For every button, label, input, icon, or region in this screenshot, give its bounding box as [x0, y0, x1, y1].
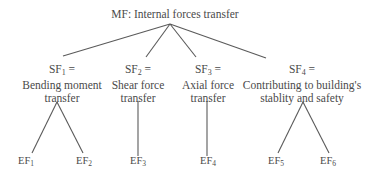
sub-function-node-sf4: SF4 = Contributing to building's stablit… [235, 63, 369, 105]
sf1-line-1: Bending moment [10, 79, 114, 92]
ef2-index: 2 [88, 159, 92, 168]
sf3-prefix: SF [195, 63, 208, 75]
edge-sf4-ef5 [278, 102, 303, 153]
edge-mf-sf1 [63, 24, 170, 56]
ef3-index: 3 [142, 159, 146, 168]
ef3-prefix: EF [130, 155, 142, 166]
edge-mf-sf2 [146, 24, 170, 57]
edge-sf1-ef2 [57, 102, 83, 153]
sf2-prefix: SF [125, 63, 138, 75]
edge-sf4-ef6 [303, 102, 329, 153]
ef2-prefix: EF [76, 155, 88, 166]
sub-function-node-sf1: SF1 = Bending moment transfer [10, 63, 114, 105]
sf3-heading: SF3 = [175, 63, 241, 79]
sf3-equals: = [212, 63, 221, 75]
elementary-function-ef1: EF1 [18, 155, 34, 170]
root-node-mf: MF: Internal forces transfer [100, 8, 250, 21]
ef6-index: 6 [332, 159, 336, 168]
sf1-line-2: transfer [10, 92, 114, 105]
ef4-index: 4 [212, 159, 216, 168]
ef5-index: 5 [280, 159, 284, 168]
sf2-heading: SF2 = [105, 63, 171, 79]
sf4-line-1: Contributing to building's [235, 79, 369, 92]
sub-function-node-sf3: SF3 = Axial force transfer [175, 63, 241, 105]
sf4-prefix: SF [289, 63, 302, 75]
elementary-function-ef6: EF6 [320, 155, 336, 170]
ef1-prefix: EF [18, 155, 30, 166]
elementary-function-ef4: EF4 [200, 155, 216, 170]
sub-function-node-sf2: SF2 = Shear force transfer [105, 63, 171, 105]
ef6-prefix: EF [320, 155, 332, 166]
sf3-line-1: Axial force [175, 79, 241, 92]
sf2-line-2: transfer [105, 92, 171, 105]
sf1-prefix: SF [49, 63, 62, 75]
root-label: MF: Internal forces transfer [111, 8, 238, 20]
ef1-index: 1 [30, 159, 34, 168]
sf1-heading: SF1 = [10, 63, 114, 79]
elementary-function-ef5: EF5 [268, 155, 284, 170]
sf4-heading: SF4 = [235, 63, 369, 79]
sf4-line-2: stablity and safety [235, 92, 369, 105]
elementary-function-ef3: EF3 [130, 155, 146, 170]
sf3-line-2: transfer [175, 92, 241, 105]
elementary-function-ef2: EF2 [76, 155, 92, 170]
ef4-prefix: EF [200, 155, 212, 166]
ef5-prefix: EF [268, 155, 280, 166]
sf4-equals: = [306, 63, 315, 75]
edge-mf-sf4 [170, 24, 266, 58]
sf2-line-1: Shear force [105, 79, 171, 92]
sf2-equals: = [142, 63, 151, 75]
sf1-equals: = [66, 63, 75, 75]
edge-sf1-ef1 [32, 102, 57, 153]
